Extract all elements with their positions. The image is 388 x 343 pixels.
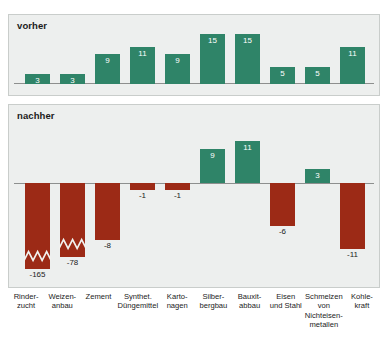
bar-column-nachher: 9: [195, 105, 230, 287]
bar-nachher: 3: [305, 169, 330, 183]
bar-column-nachher: -1: [160, 105, 195, 287]
bar-value-label: 9: [95, 57, 120, 65]
category-label-line: nagen: [160, 301, 194, 310]
category-label-line: Bauxit-: [232, 292, 266, 301]
bar-nachher: [270, 183, 295, 226]
bar-value-label: 3: [60, 77, 85, 85]
bar-nachher: [340, 183, 365, 249]
category-label-line: von: [305, 301, 343, 310]
bar-column-nachher: 3: [300, 105, 335, 287]
axis-break-zigzag-icon: [24, 249, 51, 263]
category-label: Kohle-kraft: [344, 292, 380, 342]
bar-column-nachher: 11: [230, 105, 265, 287]
bar-column-nachher: -6: [265, 105, 300, 287]
bar-vorher: 15: [200, 34, 225, 84]
plot-area-nachher: -165-78-8-1-1911-63-11: [9, 105, 379, 287]
bar-column-vorher: 11: [125, 15, 160, 84]
bar-column-vorher: 9: [160, 15, 195, 84]
bar-value-label: -165: [20, 271, 55, 279]
bar-vorher: 5: [305, 67, 330, 84]
bar-column-nachher: -165: [20, 105, 55, 287]
bar-vorher: 3: [25, 74, 50, 84]
panel-vorher: vorher 33911915155511: [8, 14, 380, 96]
bar-value-label: 9: [200, 152, 225, 160]
category-label-line: Eisen: [269, 292, 303, 301]
bar-value-label: -1: [125, 192, 160, 200]
bar-vorher: 5: [270, 67, 295, 84]
bar-value-label: 3: [25, 77, 50, 85]
category-label: SchmelzenvonNichteisen-metallen: [304, 292, 344, 342]
bar-vorher: 3: [60, 74, 85, 84]
category-label-line: bergbau: [196, 301, 230, 310]
category-label-line: kraft: [345, 301, 379, 310]
category-label-line: metallen: [305, 320, 343, 329]
category-axis: Rinder-zuchtWeizen-anbauZementSynthet.Dü…: [8, 292, 380, 342]
category-label: Synthet.Düngemittel: [117, 292, 160, 342]
bar-column-nachher: -11: [335, 105, 370, 287]
bar-nachher: 9: [200, 149, 225, 183]
category-label-line: Nichteisen-: [305, 311, 343, 320]
bar-nachher: [95, 183, 120, 240]
bar-column-vorher: 11: [335, 15, 370, 84]
bar-value-label: 5: [270, 70, 295, 78]
bar-value-label: 11: [130, 50, 155, 58]
bar-value-label: 15: [200, 37, 225, 45]
bar-value-label: 5: [305, 70, 330, 78]
bar-nachher: [130, 183, 155, 190]
bar-column-vorher: 5: [265, 15, 300, 84]
category-label: Silber-bergbau: [195, 292, 231, 342]
bar-column-vorher: 15: [195, 15, 230, 84]
bar-column-vorher: 5: [300, 15, 335, 84]
category-label: Rinder-zucht: [8, 292, 44, 342]
bar-value-label: 3: [305, 172, 330, 180]
category-label: Zement: [80, 292, 116, 342]
bar-nachher: [60, 183, 85, 257]
bar-value-label: -78: [55, 259, 90, 267]
category-label: Eisenund Stahl: [268, 292, 304, 342]
category-label-line: Synthet.: [118, 292, 159, 301]
category-label: Weizen-anbau: [44, 292, 80, 342]
bar-vorher: 15: [235, 34, 260, 84]
bar-value-label: 11: [235, 144, 260, 152]
category-label-line: Zement: [81, 292, 115, 301]
bar-column-vorher: 9: [90, 15, 125, 84]
bar-column-nachher: -1: [125, 105, 160, 287]
axis-break-zigzag-icon: [59, 237, 86, 251]
bar-nachher: [165, 183, 190, 190]
plot-area-vorher: 33911915155511: [9, 15, 379, 95]
bar-column-vorher: 3: [55, 15, 90, 84]
category-label: Karto-nagen: [159, 292, 195, 342]
category-label-line: abbau: [232, 301, 266, 310]
panel-nachher: nachher -165-78-8-1-1911-63-11: [8, 104, 380, 288]
bar-value-label: 15: [235, 37, 260, 45]
bar-nachher: 11: [235, 141, 260, 183]
category-label-line: Silber-: [196, 292, 230, 301]
bar-value-label: -8: [90, 242, 125, 250]
bar-column-nachher: -78: [55, 105, 90, 287]
category-label-line: Schmelzen: [305, 292, 343, 301]
bar-column-vorher: 15: [230, 15, 265, 84]
category-label-line: anbau: [45, 301, 79, 310]
bar-value-label: -6: [265, 228, 300, 236]
bar-vorher: 11: [340, 47, 365, 84]
category-label-line: Karto-: [160, 292, 194, 301]
bar-column-nachher: -8: [90, 105, 125, 287]
category-label-line: Weizen-: [45, 292, 79, 301]
bar-column-vorher: 3: [20, 15, 55, 84]
bar-vorher: 11: [130, 47, 155, 84]
bar-nachher: [25, 183, 50, 269]
bar-vorher: 9: [165, 54, 190, 84]
bar-value-label: -1: [160, 192, 195, 200]
category-label: Bauxit-abbau: [231, 292, 267, 342]
category-label-line: Düngemittel: [118, 301, 159, 310]
bar-value-label: -11: [335, 251, 370, 259]
category-label-line: Rinder-: [9, 292, 43, 301]
bar-value-label: 11: [340, 50, 365, 58]
bar-value-label: 9: [165, 57, 190, 65]
bar-group-vorher: 33911915155511: [20, 15, 370, 95]
chart-figure: vorher 33911915155511 nachher -165-78-8-…: [0, 0, 388, 343]
category-label-line: zucht: [9, 301, 43, 310]
category-label-line: und Stahl: [269, 301, 303, 310]
bar-vorher: 9: [95, 54, 120, 84]
category-label-line: Kohle-: [345, 292, 379, 301]
